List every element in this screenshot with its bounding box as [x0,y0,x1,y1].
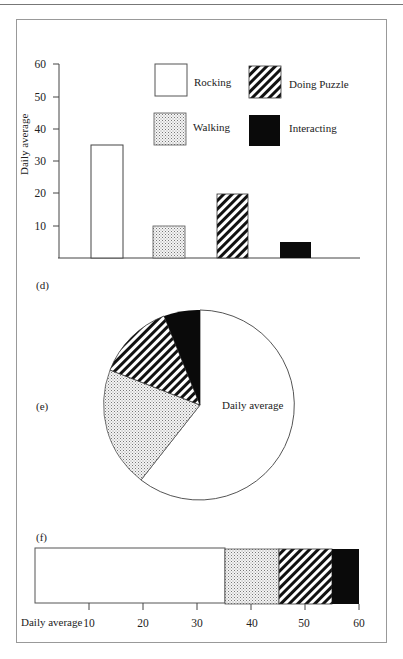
y-tick-10: 10 [35,220,47,232]
x-tick-20: 20 [137,617,149,629]
legend-swatch-rocking [155,64,187,96]
x-tick-30: 30 [191,617,203,629]
y-ticks: 60 50 40 30 20 10 [35,58,60,232]
legend: Rocking Walking Doing Puzzle Interacting [154,64,349,146]
pie-chart: Daily average [104,310,295,500]
y-tick-50: 50 [35,91,47,103]
legend-swatch-doing-puzzle [249,66,281,98]
legend-label-rocking: Rocking [194,76,232,88]
stack-segment-walking [225,549,279,604]
x-tick-50: 50 [298,617,310,629]
y-tick-30: 30 [35,155,47,167]
panel-label-f: (f) [36,531,47,544]
y-tick-60: 60 [35,58,47,70]
figure-canvas: 60 50 40 30 20 10 Daily average Rocking … [0,0,403,659]
legend-label-doing-puzzle: Doing Puzzle [289,78,349,90]
legend-label-interacting: Interacting [289,122,337,134]
legend-swatch-walking [154,113,186,145]
stack-segment-interacting [332,549,359,604]
panel-label-d: (d) [36,279,49,292]
stacked-bar-chart: 10 20 30 40 50 60 Daily average [21,548,365,629]
stack-segment-rocking [35,548,225,603]
panel-label-e: (e) [36,400,49,413]
bar-doing-puzzle [217,194,248,258]
legend-label-walking: Walking [193,121,230,133]
bar-walking [153,226,185,258]
y-axis-label: Daily average [18,114,30,175]
bar-rocking [91,145,123,258]
x-ticks: 10 20 30 40 50 60 [83,603,365,629]
stack-segment-doing-puzzle [279,549,332,604]
y-tick-20: 20 [35,187,47,199]
x-tick-10: 10 [83,617,95,629]
x-axis-label: Daily average [21,616,82,628]
bar-chart: 60 50 40 30 20 10 Daily average Rocking … [18,58,360,258]
legend-swatch-interacting [249,115,280,146]
x-tick-40: 40 [246,617,258,629]
y-tick-40: 40 [35,123,47,135]
bar-interacting [280,242,311,258]
x-tick-60: 60 [353,617,365,629]
pie-annotation: Daily average [222,399,283,411]
